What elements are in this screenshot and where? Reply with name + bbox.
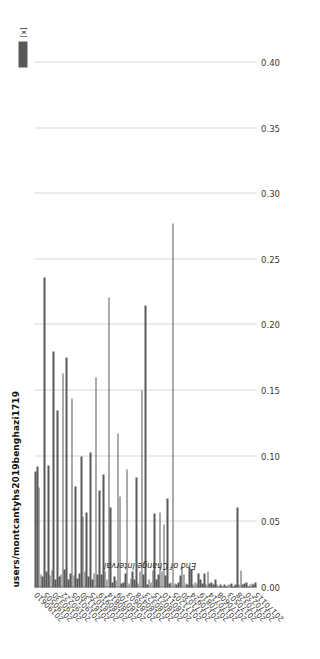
value-tick-label: 0.10 [256, 446, 275, 465]
chart-legend: [x] [18, 27, 27, 67]
plot-area [34, 62, 256, 587]
value-tick-label: 0.05 [256, 512, 275, 531]
value-tick-label: 0.30 [256, 184, 275, 203]
value-tick-label: 0.20 [256, 315, 275, 334]
value-tick-label: 0.40 [256, 53, 275, 72]
value-tick-label: 0.15 [256, 381, 275, 400]
category-axis-label: End of Change Interval [50, 561, 250, 570]
chart-page: users/montcantyhs2019benghazi1719 [x] 0.… [0, 0, 320, 659]
bar-row [34, 62, 36, 587]
value-tick-label: 0.25 [256, 249, 275, 268]
legend-swatch [18, 41, 27, 67]
value-axis-ticks: 0.000.050.100.150.200.250.300.350.40 [256, 62, 296, 587]
bar [34, 472, 36, 588]
value-tick-label: 0.35 [256, 118, 275, 137]
legend-label: [x] [18, 27, 27, 37]
chart-figure: users/montcantyhs2019benghazi1719 [x] 0.… [0, 0, 320, 659]
chart-title: users/montcantyhs2019benghazi1719 [10, 390, 20, 587]
category-axis-ticks: 2017011520170220201703282017050320170608… [34, 589, 256, 659]
